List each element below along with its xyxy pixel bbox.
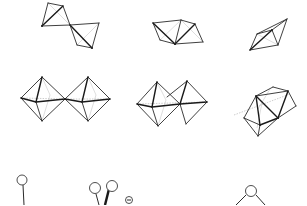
corner-sharing-tetrahedra bbox=[41, 3, 99, 49]
monodentate-ligand bbox=[17, 175, 27, 205]
edge-sharing-tetrahedra bbox=[153, 20, 203, 45]
ligand-atom-left bbox=[90, 183, 101, 194]
ligand-atom-right bbox=[107, 181, 118, 192]
bidentate-ligand-with-charge bbox=[90, 181, 133, 206]
ligand-atom bbox=[17, 175, 27, 185]
face-sharing-octahedra bbox=[234, 87, 296, 136]
bridging-ligand bbox=[236, 186, 265, 206]
face-sharing-tetrahedra bbox=[250, 19, 287, 50]
edge-sharing-octahedra bbox=[137, 81, 207, 126]
ligand-atom bbox=[246, 186, 257, 197]
polyhedra-figure bbox=[0, 0, 307, 205]
negative-charge-icon bbox=[126, 197, 133, 204]
corner-sharing-octahedra bbox=[21, 77, 110, 121]
